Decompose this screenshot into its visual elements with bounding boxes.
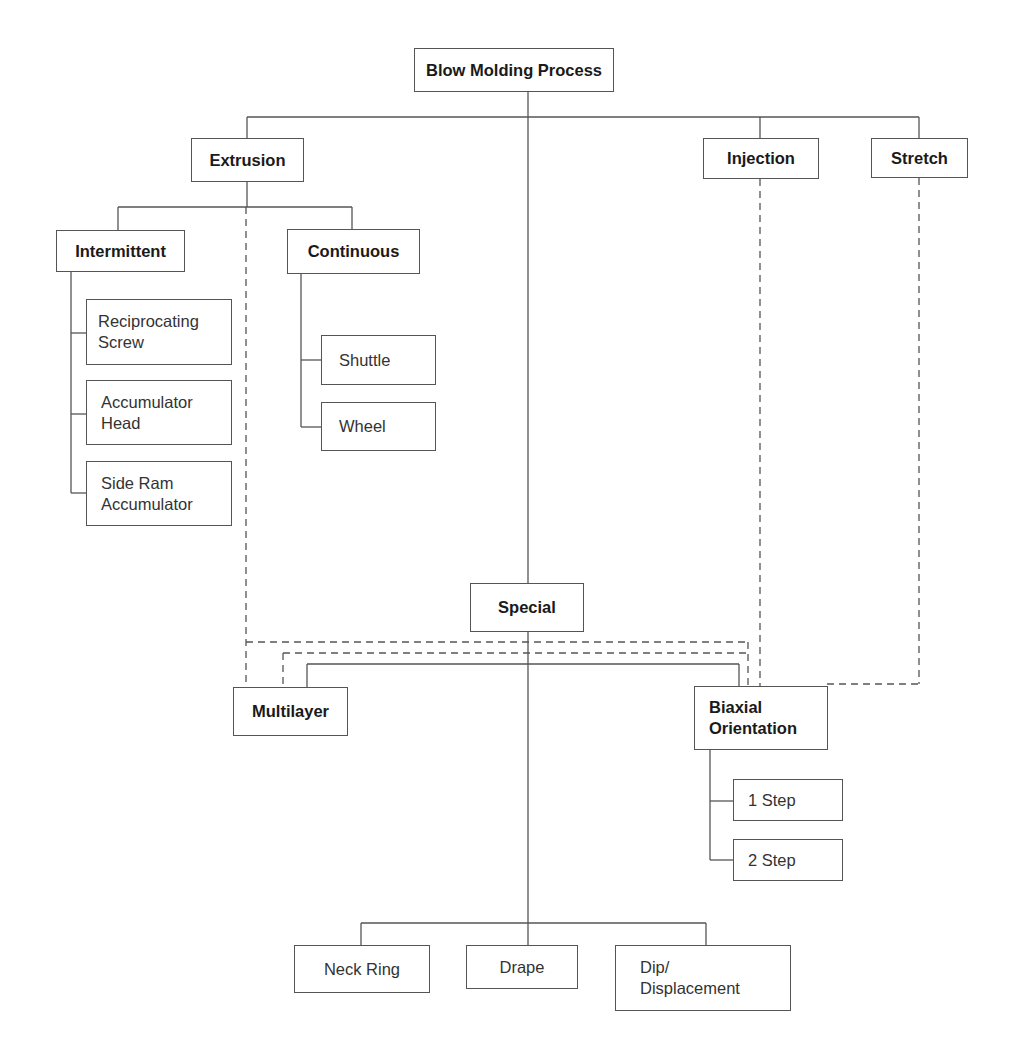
node-neck-ring: Neck Ring [294,945,430,993]
node-reciprocating-screw: Reciprocating Screw [86,299,232,365]
node-label: Shuttle [339,350,390,371]
node-label: Blow Molding Process [426,60,602,81]
node-multilayer: Multilayer [233,687,348,736]
blow-molding-diagram: Blow Molding Process Extrusion Injection… [0,0,1022,1054]
node-label: Accumulator Head [101,392,193,433]
node-label: 1 Step [748,790,796,811]
node-1-step: 1 Step [733,779,843,821]
node-injection: Injection [703,138,819,179]
node-label: Multilayer [252,701,329,722]
connector-lines [0,0,1022,1054]
node-extrusion: Extrusion [191,138,304,182]
node-label: Dip/ Displacement [640,957,740,998]
node-side-ram-accumulator: Side Ram Accumulator [86,461,232,526]
node-biaxial-orientation: Biaxial Orientation [694,686,828,750]
node-drape: Drape [466,945,578,989]
node-special: Special [470,583,584,632]
node-label: Neck Ring [324,959,400,980]
node-stretch: Stretch [871,138,968,178]
node-label: 2 Step [748,850,796,871]
node-dip-displacement: Dip/ Displacement [615,945,791,1011]
node-accumulator-head: Accumulator Head [86,380,232,445]
node-label: Reciprocating Screw [98,311,199,352]
node-wheel: Wheel [321,402,436,451]
node-label: Continuous [308,241,400,262]
node-label: Side Ram Accumulator [101,473,193,514]
node-blow-molding-process: Blow Molding Process [414,48,614,92]
node-intermittent: Intermittent [56,230,185,272]
node-label: Intermittent [75,241,166,262]
node-label: Drape [500,957,545,978]
node-shuttle: Shuttle [321,335,436,385]
node-label: Special [498,597,556,618]
node-label: Extrusion [209,150,285,171]
node-label: Injection [727,148,795,169]
node-continuous: Continuous [287,229,420,274]
node-label: Biaxial Orientation [709,697,797,738]
node-2-step: 2 Step [733,839,843,881]
node-label: Wheel [339,416,386,437]
node-label: Stretch [891,148,948,169]
